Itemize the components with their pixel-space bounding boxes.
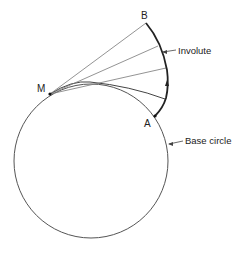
- base-circle: [14, 84, 168, 238]
- tangent-line-2: [50, 46, 158, 94]
- involute-diagram: B M A Involute Base circle: [0, 0, 251, 253]
- label-base-circle: Base circle: [185, 135, 231, 146]
- label-b: B: [141, 10, 148, 21]
- base-circle-leader-arrow-icon: [168, 142, 173, 146]
- label-involute: Involute: [178, 45, 211, 56]
- point-a-dot: [153, 114, 156, 117]
- point-m-dot: [48, 92, 51, 95]
- label-a: A: [144, 118, 151, 129]
- label-m: M: [37, 83, 45, 94]
- involute-curve: [146, 23, 168, 116]
